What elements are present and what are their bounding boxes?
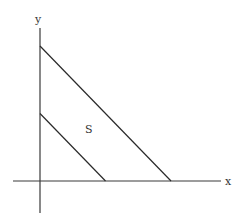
- region-label: S: [85, 123, 93, 136]
- x-axis-label: x: [225, 175, 232, 188]
- inner-boundary-line: [40, 114, 106, 182]
- outer-boundary-line: [40, 46, 171, 181]
- region-diagram: y x S: [0, 0, 243, 220]
- y-axis-label: y: [34, 13, 42, 26]
